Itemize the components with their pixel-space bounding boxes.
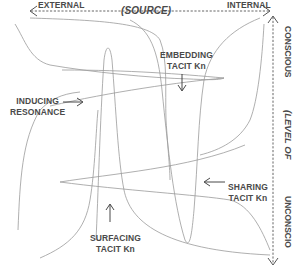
inducing-label: INDUCING RESONANCE (10, 96, 65, 118)
sharing-label: SHARING TACIT Kn (228, 182, 268, 204)
surfacing-line2: TACIT Kn (90, 244, 141, 255)
inducing-line1: INDUCING (10, 96, 65, 107)
arrow-left-icon (204, 178, 225, 186)
surfacing-label: SURFACING TACIT Kn (90, 233, 141, 255)
diagram-canvas (0, 0, 302, 272)
sharing-line2: TACIT Kn (228, 193, 268, 204)
embedding-label: EMBEDDING TACIT Kn (160, 50, 213, 72)
curve-lens2-upper (60, 145, 245, 182)
internal-label: INTERNAL (227, 0, 271, 11)
embedding-line2: TACIT Kn (160, 61, 213, 72)
conscious-label: CONSCIOUS (283, 26, 293, 77)
surfacing-line1: SURFACING (90, 233, 141, 244)
unconscious-label: UNCONSCIO (283, 196, 293, 248)
inducing-line2: RESONANCE (10, 107, 65, 118)
embedding-line1: EMBEDDING (160, 50, 213, 61)
curve-right (200, 24, 264, 155)
arrow-up-icon (106, 204, 114, 222)
level-of-label: (LEVEL OF (283, 110, 294, 159)
process-arrows (63, 74, 225, 222)
curves (15, 18, 270, 258)
sharing-line1: SHARING (228, 182, 268, 193)
external-label: EXTERNAL (38, 0, 85, 11)
level-axis (268, 16, 278, 265)
source-label: (SOURCE) (121, 5, 171, 16)
